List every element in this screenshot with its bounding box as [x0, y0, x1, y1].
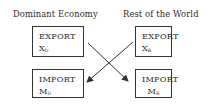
flow-arrows — [0, 0, 214, 109]
